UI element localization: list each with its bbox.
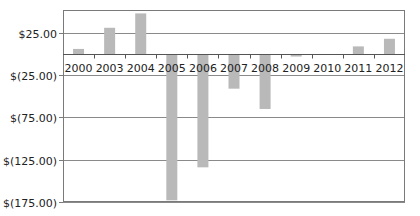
bar-2000: [73, 49, 84, 54]
y-tick-label: $25.00: [19, 28, 58, 41]
y-tick-label: $(75.00): [10, 112, 57, 125]
bar-chart: $25.00$(25.00)$(75.00)$(125.00)$(175.00)…: [0, 0, 420, 216]
x-tick-label: 2011: [344, 62, 372, 75]
x-tick-label: 2007: [220, 62, 248, 75]
x-tick-label: 2003: [96, 62, 124, 75]
x-tick-label: 2004: [127, 62, 155, 75]
y-tick-label: $(125.00): [3, 155, 57, 168]
x-tick-label: 2005: [158, 62, 186, 75]
x-tick-label: 2010: [313, 62, 341, 75]
bar-2003: [104, 28, 115, 54]
bar-2011: [353, 46, 364, 54]
y-tick-label: $(175.00): [3, 197, 57, 210]
x-tick-label: 2008: [251, 62, 279, 75]
x-tick-label: 2006: [189, 62, 217, 75]
bar-2005: [166, 54, 177, 200]
y-axis: $25.00$(25.00)$(75.00)$(125.00)$(175.00): [3, 28, 63, 210]
y-tick-label: $(25.00): [10, 70, 57, 83]
bar-2004: [135, 13, 146, 54]
bar-2012: [384, 39, 395, 54]
x-tick-label: 2009: [282, 62, 310, 75]
bars: [73, 13, 395, 200]
x-tick-label: 2012: [375, 62, 403, 75]
x-tick-label: 2000: [65, 62, 93, 75]
